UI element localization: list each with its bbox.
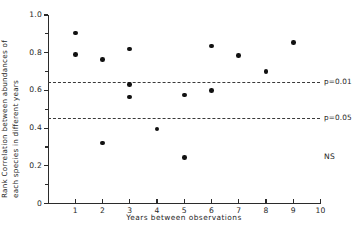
- x-tick: [320, 199, 321, 203]
- x-tick: [238, 199, 239, 203]
- y-tick-major: [44, 165, 48, 166]
- y-tick-major: [44, 90, 48, 91]
- scatter-plot-figure: Rank Correlation between abundances of e…: [0, 0, 355, 230]
- data-point: [155, 127, 160, 132]
- y-axis-line: [48, 15, 49, 204]
- y-tick-label: 0.6: [14, 85, 42, 94]
- y-tick-minor: [45, 184, 48, 185]
- data-point: [182, 93, 187, 98]
- y-tick-label: 0: [14, 199, 42, 208]
- data-point: [291, 40, 296, 45]
- y-tick-label: 0.8: [14, 48, 42, 57]
- y-axis-label-line-1: Rank Correlation between abundances of: [0, 40, 11, 198]
- data-point: [100, 57, 105, 62]
- data-point: [264, 69, 269, 74]
- x-axis-line: [48, 203, 321, 204]
- y-tick-label: 0.4: [14, 123, 42, 132]
- y-tick-major: [44, 203, 48, 204]
- data-point: [73, 52, 78, 57]
- y-tick-major: [44, 14, 48, 15]
- y-tick-major: [44, 128, 48, 129]
- data-point: [127, 95, 132, 100]
- x-tick: [211, 199, 212, 203]
- y-tick-minor: [45, 109, 48, 110]
- threshold-label: p=0.01: [324, 77, 352, 86]
- x-tick: [293, 199, 294, 203]
- data-point: [100, 141, 105, 146]
- ns-annotation: NS: [324, 152, 335, 161]
- y-tick-minor: [45, 33, 48, 34]
- x-tick: [184, 199, 185, 203]
- y-tick-minor: [45, 71, 48, 72]
- x-tick: [75, 199, 76, 203]
- y-axis-label: Rank Correlation between abundances of e…: [0, 0, 30, 210]
- data-point: [127, 82, 132, 87]
- threshold-line: [48, 118, 320, 119]
- x-tick: [265, 199, 266, 203]
- data-point: [127, 47, 132, 52]
- y-tick-major: [44, 52, 48, 53]
- data-point: [236, 53, 241, 58]
- data-point: [209, 88, 214, 93]
- data-point: [73, 31, 78, 36]
- x-tick: [102, 199, 103, 203]
- y-tick-label: 0.2: [14, 161, 42, 170]
- x-axis-label: Years between observations: [48, 213, 320, 222]
- y-tick-minor: [45, 146, 48, 147]
- threshold-label: p=0.05: [324, 113, 352, 122]
- data-point: [182, 155, 187, 160]
- threshold-line: [48, 82, 320, 83]
- data-point: [209, 44, 214, 49]
- y-axis-label-line-2: each species in different years: [11, 40, 22, 198]
- x-tick: [129, 199, 130, 203]
- y-tick-label: 1.0: [14, 10, 42, 19]
- x-tick: [156, 199, 157, 203]
